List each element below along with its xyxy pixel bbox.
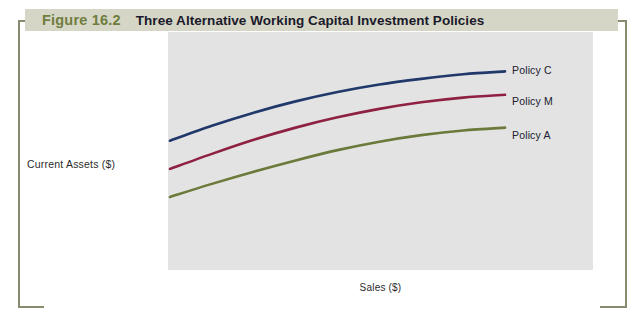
- y-axis-label: Current Assets ($): [27, 158, 115, 170]
- legend-label-policy-m: Policy M: [512, 95, 553, 107]
- corner-bracket-bottom-left: [18, 304, 44, 308]
- corner-bracket-bottom-right: [600, 304, 625, 308]
- figure-title: Three Alternative Working Capital Invest…: [136, 13, 485, 28]
- figure-container: Figure 16.2 Three Alternative Working Ca…: [0, 0, 643, 324]
- corner-bracket-top-right: [600, 20, 627, 308]
- legend-label-policy-c: Policy C: [512, 64, 552, 76]
- x-axis-label: Sales ($): [168, 282, 593, 293]
- figure-number: Figure 16.2: [42, 12, 121, 28]
- figure-title-band: Figure 16.2 Three Alternative Working Ca…: [25, 9, 618, 31]
- legend-label-policy-a: Policy A: [512, 129, 551, 141]
